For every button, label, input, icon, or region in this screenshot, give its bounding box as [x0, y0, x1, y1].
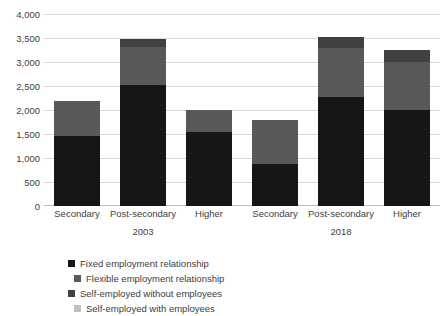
bar-segment[interactable]: [54, 101, 100, 136]
bar-segment[interactable]: [186, 110, 232, 132]
y-axis-tick-label: 3,500: [0, 33, 40, 44]
bar-slot: [176, 14, 242, 206]
x-axis-group-label: 2018: [242, 226, 440, 244]
bar-segment[interactable]: [384, 62, 430, 110]
x-axis-tick-label: Secondary: [242, 208, 308, 228]
bar-segment[interactable]: [318, 48, 364, 97]
plot-area: [44, 14, 440, 206]
bar-segment[interactable]: [252, 164, 298, 206]
y-axis-tick-label: 2,500: [0, 81, 40, 92]
y-axis-tick-label: 0: [0, 201, 40, 212]
bar-slot: [374, 14, 440, 206]
x-axis-group-label: 2003: [44, 226, 242, 244]
x-axis-tick-label: Post-secondary: [110, 208, 176, 228]
legend-item[interactable]: Flexible employment relationship: [68, 271, 239, 286]
bar-slot: [242, 14, 308, 206]
bar-segment[interactable]: [318, 37, 364, 48]
bar-segment[interactable]: [384, 50, 430, 62]
stacked-bar[interactable]: [120, 39, 166, 206]
x-axis-tick-label: Higher: [176, 208, 242, 228]
legend-item-label: Self-employed with employees: [86, 303, 215, 314]
x-axis-category-labels: SecondaryPost-secondaryHigherSecondaryPo…: [44, 208, 440, 228]
bar-segment[interactable]: [120, 85, 166, 206]
x-axis-tick-label: Secondary: [44, 208, 110, 228]
y-axis-tick-label: 2,000: [0, 105, 40, 116]
legend-item-label: Flexible employment relationship: [86, 273, 224, 284]
x-axis-group-labels: 20032018: [44, 226, 440, 244]
bar-segment[interactable]: [384, 110, 430, 206]
stacked-bar[interactable]: [318, 37, 364, 206]
y-axis-tick-label: 1,500: [0, 129, 40, 140]
bar-segment[interactable]: [54, 136, 100, 206]
x-axis-tick-label: Higher: [374, 208, 440, 228]
x-axis-tick-label: Post-secondary: [308, 208, 374, 228]
legend-swatch-icon: [68, 260, 75, 267]
chart-legend: Fixed employment relationshipFlexible em…: [68, 256, 398, 316]
legend-item[interactable]: Self-employed with employees: [68, 301, 239, 316]
y-axis-tick-label: 1,000: [0, 153, 40, 164]
bar-slot: [308, 14, 374, 206]
y-axis-tick-label: 4,000: [0, 9, 40, 20]
bar-segment[interactable]: [318, 97, 364, 206]
y-axis-tick-label: 500: [0, 177, 40, 188]
legend-swatch-icon: [74, 275, 81, 282]
stacked-bar[interactable]: [54, 101, 100, 206]
y-axis-tick-label: 3,000: [0, 57, 40, 68]
stacked-bar[interactable]: [384, 50, 430, 206]
bars-container: [44, 14, 440, 206]
bar-slot: [110, 14, 176, 206]
legend-swatch-icon: [68, 290, 75, 297]
stacked-bar[interactable]: [186, 110, 232, 206]
bar-segment[interactable]: [252, 120, 298, 164]
legend-item[interactable]: Self-employed without employees: [68, 286, 233, 301]
legend-item[interactable]: Fixed employment relationship: [68, 256, 233, 271]
bar-segment[interactable]: [120, 39, 166, 46]
legend-item-label: Self-employed without employees: [80, 288, 222, 299]
legend-swatch-icon: [74, 305, 81, 312]
bar-slot: [44, 14, 110, 206]
legend-item-label: Fixed employment relationship: [80, 258, 209, 269]
bar-segment[interactable]: [120, 47, 166, 85]
bar-segment[interactable]: [186, 132, 232, 206]
stacked-bar[interactable]: [252, 120, 298, 206]
y-axis-labels: 4,0003,5003,0002,5002,0001,5001,0005000: [0, 14, 40, 206]
